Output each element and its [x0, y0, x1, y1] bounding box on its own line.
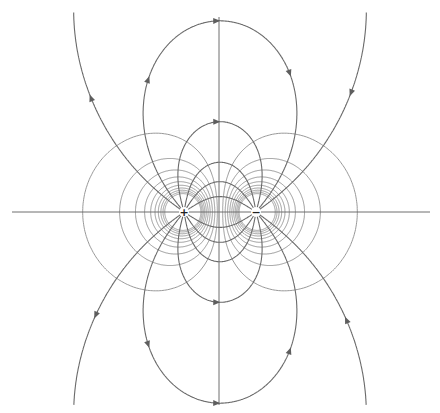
- positive-charge: +: [179, 206, 189, 219]
- positive-charge-label: +: [179, 206, 188, 219]
- background: [0, 0, 440, 413]
- negative-charge-label: −: [251, 206, 260, 219]
- dipole-field-diagram: + −: [0, 0, 440, 413]
- negative-charge: −: [251, 206, 261, 219]
